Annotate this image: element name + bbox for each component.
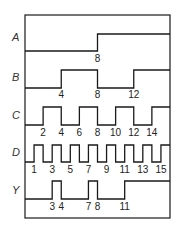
waveform-b [25,70,170,88]
signal-group: A8B4812C2468101214D13579111315Y347811 [11,31,170,212]
time-label: 12 [128,127,140,138]
time-label: 10 [110,127,122,138]
time-label: 7 [86,164,92,175]
signal-d: D13579111315 [12,145,170,175]
signal-label: Y [12,184,20,196]
time-label: 1 [31,164,37,175]
time-label: 4 [58,201,64,212]
signal-label: B [12,71,19,83]
signal-y: Y347811 [12,181,170,212]
time-label: 14 [146,127,158,138]
time-label: 8 [95,201,101,212]
time-label: 11 [119,164,130,175]
waveform-c [25,107,170,125]
time-label: 4 [58,127,64,138]
waveform-d [25,145,170,162]
time-label: 5 [68,164,74,175]
signal-c: C2468101214 [12,107,170,138]
signal-label: A [11,31,19,43]
time-label: 8 [95,53,101,64]
signal-label: C [12,109,20,121]
waveform-y [25,181,170,199]
time-label: 4 [58,89,64,100]
time-label: 13 [137,164,149,175]
time-label: 7 [86,201,92,212]
time-label: 6 [77,127,83,138]
time-label: 11 [119,201,130,212]
waveform-a [25,34,170,51]
time-label: 12 [128,89,140,100]
signal-b: B4812 [12,70,170,100]
time-label: 2 [40,127,46,138]
time-label: 9 [104,164,110,175]
time-label: 8 [95,89,101,100]
timing-diagram: A8B4812C2468101214D13579111315Y347811 [0,0,178,232]
time-label: 8 [95,127,101,138]
time-label: 15 [155,164,167,175]
time-label: 3 [49,201,55,212]
time-label: 3 [49,164,55,175]
signal-a: A8 [11,31,170,64]
signal-label: D [12,146,20,158]
